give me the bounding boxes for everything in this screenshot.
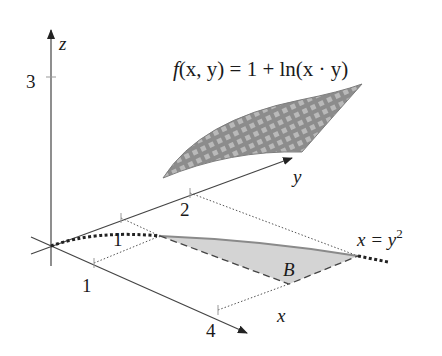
tick-marks: [46, 77, 218, 315]
function-label: f(x, y) = 1 + ln(x · y): [173, 57, 348, 81]
curve-x-equals-y-squared-extension: [358, 256, 388, 262]
y-axis: [31, 158, 292, 254]
x-tick-1: 1: [82, 275, 92, 296]
y-tick-1: 1: [113, 229, 123, 250]
z-axis-label: z: [58, 33, 67, 54]
curve-label-text: x = y: [356, 229, 397, 250]
region-b-label: B: [283, 259, 295, 280]
curve-label: x = y2: [356, 226, 403, 250]
z-tick-3: 3: [26, 71, 36, 92]
curve-x-equals-y-squared: [51, 234, 160, 246]
y-tick-2: 2: [180, 199, 190, 220]
x-axis-label: x: [276, 305, 286, 326]
surface-diagram: z 3 y 1 2 1 4 x B f(x, y) = 1 + ln(x · y…: [0, 0, 442, 356]
surface-f: [163, 84, 362, 178]
y-axis-label: y: [291, 166, 302, 187]
curve-label-exponent: 2: [396, 226, 403, 241]
function-body: (x, y) = 1 + ln(x · y): [179, 57, 349, 81]
x-tick-4: 4: [206, 320, 216, 341]
